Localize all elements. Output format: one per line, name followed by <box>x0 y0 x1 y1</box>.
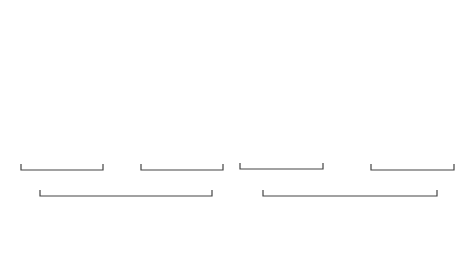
group-brackets <box>21 163 454 196</box>
bracket-feature-group <box>40 190 212 196</box>
bracket-feature-1 <box>21 164 103 170</box>
network-diagram <box>0 0 469 278</box>
bracket-enhance-1 <box>240 163 323 169</box>
bracket-feature-2 <box>141 164 223 170</box>
bracket-enhance-group <box>263 190 437 196</box>
bracket-enhance-2 <box>371 164 454 170</box>
